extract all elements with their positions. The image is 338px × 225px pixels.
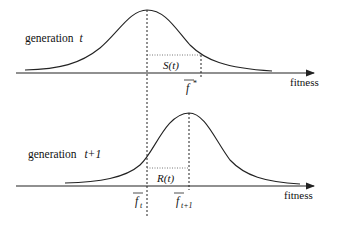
svg-text:f: f [186,82,191,95]
svg-text:*: * [193,79,197,88]
top-generation-label: generation t [25,32,83,45]
top-axis-label: fitness [290,76,319,88]
selected-mean-label: f * [184,79,197,95]
selection-response-diagram: generation t S(t) fitness f * generation… [0,0,338,225]
offspring-mean-label: f t+1 [174,193,193,210]
bottom-generation-label: generation t+1 [28,148,101,161]
response-label: R(t) [156,172,174,185]
bottom-panel: generation t+1 R(t) fitness f t f t+1 [16,113,314,210]
svg-text:t: t [140,201,143,210]
selection-differential-label: S(t) [163,59,179,72]
bottom-axis-label: fitness [284,189,313,201]
svg-text:t+1: t+1 [181,201,193,210]
parent-mean-label: f t [133,193,143,210]
top-panel: generation t S(t) fitness f * [16,10,319,218]
